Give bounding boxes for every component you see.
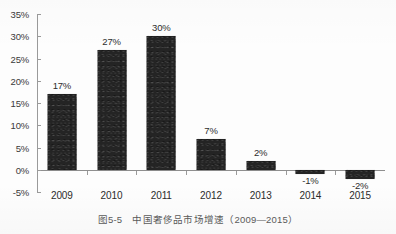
y-axis-tick-mark [37,148,41,149]
y-axis-tick-mark [37,170,41,171]
y-axis-tick-mark [37,59,41,60]
bar [246,161,275,170]
bar-value-label: 7% [204,126,217,136]
figure-container: 35%30%25%20%15%10%5%0%-5% 17%200927%2010… [0,0,396,234]
bar [47,94,76,170]
x-axis-tick-mark [136,171,137,175]
x-axis-category-label: 2010 [101,190,123,201]
x-axis-tick-mark [236,171,237,175]
y-axis-tick-label: 10% [0,121,29,130]
y-axis-tick-label: 5% [0,143,29,152]
bar [296,170,325,174]
y-axis-tick-mark [37,192,41,193]
bar-group: -1%2014 [286,0,336,206]
x-axis-tick-mark [286,171,287,175]
bar-value-label: 27% [102,37,120,47]
y-axis-tick-mark [37,14,41,15]
y-axis-tick-label: 25% [0,54,29,63]
bar-group: 2%2013 [236,0,286,206]
bar-value-label: 17% [53,81,71,91]
y-axis-labels: 35%30%25%20%15%10%5%0%-5% [0,0,34,206]
chart-plot-area: 35%30%25%20%15%10%5%0%-5% 17%200927%2010… [0,0,396,206]
bar-value-label: 2% [254,148,267,158]
x-axis-tick-mark [335,171,336,175]
bar-group: 27%2010 [87,0,137,206]
x-axis-category-label: 2009 [51,190,73,201]
x-axis-category-label: 2014 [299,190,321,201]
bar-group: 7%2012 [186,0,236,206]
y-axis-tick-mark [37,125,41,126]
x-axis-tick-mark [186,171,187,175]
y-axis-tick-label: 20% [0,76,29,85]
bars-group: 17%200927%201030%20117%20122%2013-1%2014… [37,0,385,206]
y-axis-tick-mark [37,81,41,82]
bar-group: 30%2011 [136,0,186,206]
bar-group: -2%2015 [335,0,385,206]
x-axis-category-label: 2011 [151,190,172,201]
x-axis-tick-mark [87,171,88,175]
y-axis-tick-mark [37,36,41,37]
x-axis-category-label: 2012 [200,190,222,201]
x-axis-category-label: 2015 [349,190,371,201]
bar-value-label: -1% [302,176,318,186]
bar [346,170,375,179]
y-axis-tick-label: 30% [0,32,29,41]
y-axis-tick-label: 35% [0,10,29,19]
bar [147,36,176,170]
bar-value-label: 30% [152,23,170,33]
y-axis-tick-label: 15% [0,99,29,108]
figure-caption: 图5-5 中国奢侈品市场增速（2009—2015） [0,214,396,226]
bar [196,139,225,170]
y-axis-tick-label: -5% [0,188,29,197]
x-axis-category-label: 2013 [250,190,272,201]
bar [97,50,126,170]
y-axis-tick-mark [37,103,41,104]
y-axis-tick-label: 0% [0,166,29,175]
bar-group: 17%2009 [37,0,87,206]
